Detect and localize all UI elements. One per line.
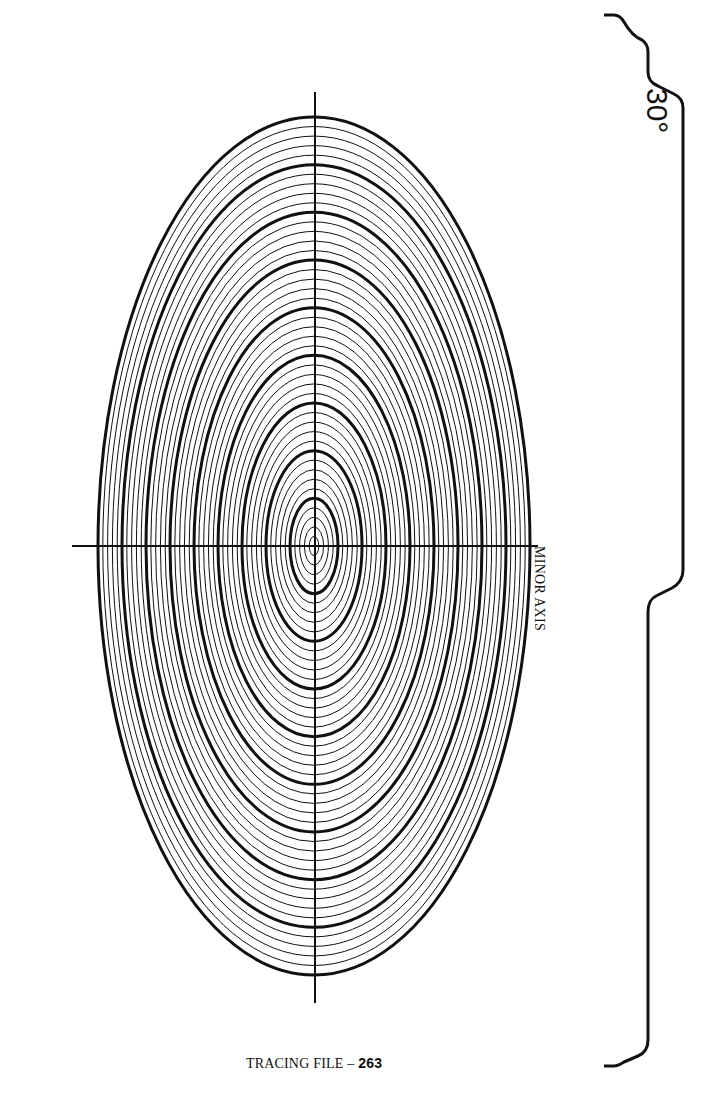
tracing-sheet: 30° MINOR AXIS TRACING FILE – 263: [0, 0, 703, 1103]
angle-label: 30°: [642, 88, 672, 133]
minor-axis-label: MINOR AXIS: [532, 546, 546, 631]
angle-bracket-icon: [604, 15, 683, 1066]
page-number: 263: [358, 1055, 382, 1071]
page-footer: TRACING FILE – 263: [0, 1055, 628, 1072]
ellipse-template-graphic: [0, 0, 703, 1103]
footer-title: TRACING FILE –: [246, 1056, 358, 1071]
